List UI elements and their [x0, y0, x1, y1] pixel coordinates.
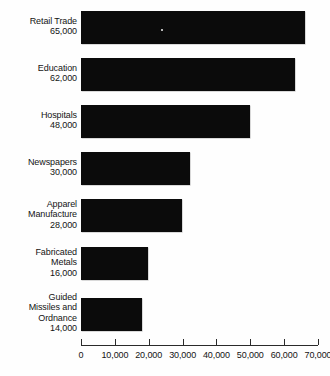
- scan-speck: [161, 29, 163, 31]
- axis-tick-mark: [250, 339, 251, 345]
- bar-category-name: Hospitals: [0, 110, 77, 120]
- axis-tick-label: 40,000: [203, 350, 230, 361]
- bar-row: Newspapers30,000: [0, 152, 330, 185]
- bar-row: FabricatedMetals16,000: [0, 247, 330, 280]
- bar-category-name: Missiles and: [0, 302, 77, 312]
- axis-tick-label: 20,000: [135, 350, 162, 361]
- axis-tick-label: 10,000: [101, 350, 128, 361]
- bar-category-name: Newspapers: [0, 157, 77, 167]
- bar-row: ApparelManufacture28,000: [0, 199, 330, 232]
- bar-value-label: 48,000: [0, 120, 77, 130]
- bar-category-label: FabricatedMetals16,000: [0, 247, 77, 278]
- bar-rect: [81, 247, 148, 280]
- bar-category-name: Manufacture: [0, 209, 77, 219]
- bar-value-label: 30,000: [0, 167, 77, 177]
- bar-value-label: 16,000: [0, 268, 77, 278]
- axis-tick-mark: [284, 339, 285, 345]
- bar-row: Retail Trade65,000: [0, 11, 330, 44]
- bar-row: Hospitals48,000: [0, 105, 330, 138]
- axis-tick-label: 50,000: [237, 350, 264, 361]
- bar-category-name: Ordnance: [0, 313, 77, 323]
- axis-tick-mark: [115, 339, 116, 345]
- bar-category-name: Education: [0, 63, 77, 73]
- bar-rect: [81, 152, 190, 185]
- bar-category-label: Newspapers30,000: [0, 157, 77, 178]
- bar-rect: [81, 11, 305, 44]
- axis-tick-mark: [81, 339, 82, 345]
- bar-rect: [81, 298, 142, 331]
- axis-tick-label: 70,000: [305, 350, 330, 361]
- bar-category-label: Education62,000: [0, 63, 77, 84]
- bar-category-name: Fabricated: [0, 247, 77, 257]
- x-axis-line: [81, 345, 318, 346]
- bar-value-label: 62,000: [0, 73, 77, 83]
- bar-value-label: 65,000: [0, 26, 77, 36]
- bar-value-label: 14,000: [0, 323, 77, 333]
- axis-tick-mark: [216, 339, 217, 345]
- bar-rect: [81, 199, 182, 232]
- bar-row: Education62,000: [0, 58, 330, 91]
- bar-rect: [81, 58, 295, 91]
- bar-chart: Retail Trade65,000Education62,000Hospita…: [0, 0, 330, 376]
- bar-category-label: Hospitals48,000: [0, 110, 77, 131]
- bar-category-name: Apparel: [0, 199, 77, 209]
- bar-category-label: GuidedMissiles andOrdnance14,000: [0, 292, 77, 334]
- axis-tick-label: 0: [79, 350, 84, 361]
- bar-category-name: Metals: [0, 257, 77, 267]
- bar-row: GuidedMissiles andOrdnance14,000: [0, 298, 330, 331]
- axis-tick-mark: [318, 339, 319, 345]
- bar-category-name: Guided: [0, 292, 77, 302]
- bar-category-label: Retail Trade65,000: [0, 16, 77, 37]
- axis-tick-label: 60,000: [271, 350, 298, 361]
- axis-tick-mark: [183, 339, 184, 345]
- axis-tick-label: 30,000: [169, 350, 196, 361]
- bar-category-label: ApparelManufacture28,000: [0, 199, 77, 230]
- bar-rect: [81, 105, 250, 138]
- bar-category-name: Retail Trade: [0, 16, 77, 26]
- bar-value-label: 28,000: [0, 220, 77, 230]
- axis-tick-mark: [149, 339, 150, 345]
